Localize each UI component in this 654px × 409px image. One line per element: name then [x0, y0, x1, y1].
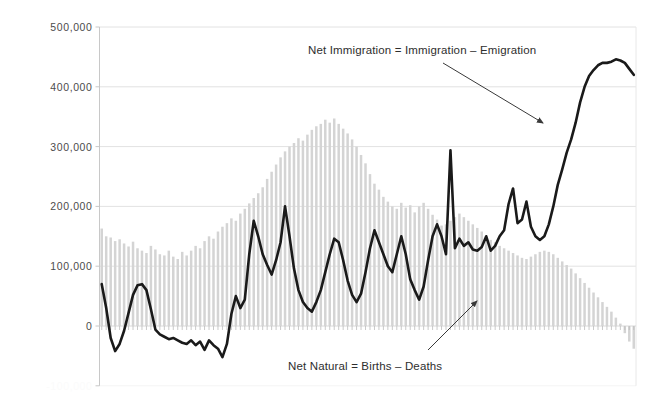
bar	[601, 302, 604, 326]
bar	[619, 324, 622, 326]
y-tick-label: 200,000	[50, 200, 92, 212]
bar	[154, 249, 157, 326]
bar	[472, 224, 475, 326]
bar	[364, 163, 367, 326]
bar	[199, 248, 202, 326]
bar	[163, 255, 166, 326]
bar	[418, 206, 421, 326]
bar	[212, 239, 215, 326]
bar	[226, 223, 229, 326]
bar	[311, 130, 314, 326]
bar	[565, 265, 568, 326]
bar	[373, 184, 376, 326]
bar	[378, 190, 381, 326]
bar	[100, 229, 103, 326]
bar	[463, 217, 466, 326]
bar	[315, 126, 318, 326]
bar	[266, 179, 269, 326]
y-tick-label: -100,000	[46, 380, 92, 392]
bar	[588, 288, 591, 326]
bar	[574, 273, 577, 326]
bar	[539, 252, 542, 326]
bar	[615, 318, 618, 326]
bar	[275, 165, 278, 326]
bar	[329, 123, 332, 326]
bar	[579, 278, 582, 326]
bar	[168, 251, 171, 326]
bar	[516, 255, 519, 326]
y-tick-label: 500,000	[50, 21, 92, 33]
bar	[342, 129, 345, 326]
bar	[449, 221, 452, 326]
immigration-annotation-label: Net Immigration = Immigration – Emigrati…	[308, 44, 536, 56]
bar	[592, 293, 595, 326]
bar	[548, 252, 551, 326]
bar	[525, 259, 528, 326]
bar	[132, 242, 135, 326]
bar	[208, 236, 211, 326]
bar	[324, 120, 327, 326]
bar	[337, 124, 340, 326]
bar	[485, 236, 488, 326]
bar	[118, 239, 121, 326]
bar	[221, 227, 224, 326]
bar	[597, 297, 600, 326]
bar	[530, 257, 533, 326]
y-tick-label: 300,000	[50, 141, 92, 153]
bar	[606, 307, 609, 326]
bar	[583, 283, 586, 326]
bar	[503, 248, 506, 326]
bar	[346, 133, 349, 326]
bar	[507, 251, 510, 326]
bar	[552, 254, 555, 326]
bar	[176, 259, 179, 326]
gridlines	[100, 27, 637, 386]
bar	[306, 135, 309, 326]
bar-series-net-natural	[100, 118, 635, 348]
chart-plot-area	[0, 0, 654, 409]
bar	[333, 118, 336, 326]
bar	[360, 155, 363, 326]
bar	[244, 209, 247, 326]
bar	[610, 312, 613, 326]
bar	[405, 208, 408, 326]
bar	[109, 238, 112, 327]
bar	[114, 241, 117, 326]
bar	[123, 243, 126, 326]
natural-annotation-label: Net Natural = Births – Deaths	[288, 360, 442, 372]
bar	[400, 203, 403, 326]
bar	[521, 258, 524, 326]
bar	[494, 242, 497, 326]
bar	[422, 203, 425, 326]
bar	[498, 246, 501, 326]
bar	[141, 251, 144, 326]
bar	[217, 232, 220, 326]
y-tick-label: 0	[86, 320, 92, 332]
bar	[257, 193, 260, 326]
y-tick-label: 100,000	[50, 260, 92, 272]
bar	[270, 172, 273, 326]
bar	[476, 228, 479, 326]
bar	[252, 198, 255, 326]
bar	[235, 221, 238, 326]
bar	[185, 255, 188, 326]
bar	[194, 246, 197, 326]
bar	[181, 252, 184, 326]
bar	[284, 151, 287, 326]
chart-container: 500,000400,000300,000200,000100,0000-100…	[0, 0, 654, 409]
bar	[543, 251, 546, 326]
bar	[489, 240, 492, 326]
bar	[570, 269, 573, 326]
bar	[159, 254, 162, 326]
bar	[190, 251, 193, 326]
bar	[436, 220, 439, 326]
bar	[561, 261, 564, 326]
bar	[172, 257, 175, 326]
bar	[293, 143, 296, 326]
bar	[458, 214, 461, 326]
bar	[534, 254, 537, 326]
annotation-arrow-0	[443, 63, 543, 123]
y-tick-label: 400,000	[50, 81, 92, 93]
bar	[203, 241, 206, 326]
x-axis-ticks	[102, 326, 634, 330]
